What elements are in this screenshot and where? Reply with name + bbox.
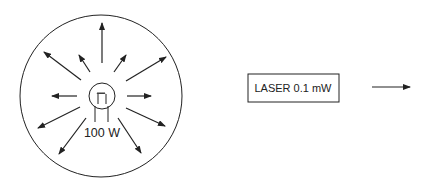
radiation-sphere: [20, 15, 182, 177]
laser-label: LASER 0.1 mW: [254, 82, 332, 94]
arrow-up-left-short-icon: [79, 55, 90, 72]
arrow-down-right-long-icon: [118, 118, 141, 153]
arrow-up-left-icon: [44, 52, 81, 80]
bulb-power-label: 100 W: [84, 126, 120, 140]
light-bulb-icon: [89, 83, 115, 122]
diagram-canvas: 100 W LASER 0.1 mW: [0, 0, 426, 191]
lamp-diagram: 100 W: [20, 15, 182, 177]
arrow-down-left-icon: [38, 107, 80, 128]
arrow-down-left-long-icon: [59, 118, 86, 154]
arrow-down-right-icon: [126, 108, 165, 126]
arrow-up-right-icon: [126, 57, 166, 81]
arrow-up-right-short-icon: [114, 55, 126, 72]
laser-diagram: LASER 0.1 mW: [248, 74, 410, 102]
